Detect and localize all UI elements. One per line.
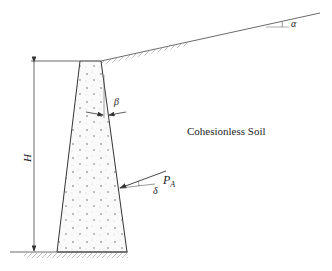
alpha-label: α	[291, 18, 297, 29]
active-force-sub: A	[169, 180, 175, 189]
delta-label: δ	[153, 185, 158, 196]
height-label: H	[21, 153, 33, 163]
beta-label: β	[113, 96, 119, 107]
soil-label: Cohesionless Soil	[187, 125, 266, 137]
backfill-hatch	[101, 41, 190, 65]
beta-arrow-right	[109, 112, 126, 115]
active-force-label: PA	[162, 173, 175, 189]
retaining-wall	[57, 61, 127, 252]
retaining-wall-diagram: H α β PA δ Cohesionless Soil	[0, 0, 332, 271]
ground-hatch	[24, 253, 128, 258]
delta-arc	[138, 181, 139, 186]
